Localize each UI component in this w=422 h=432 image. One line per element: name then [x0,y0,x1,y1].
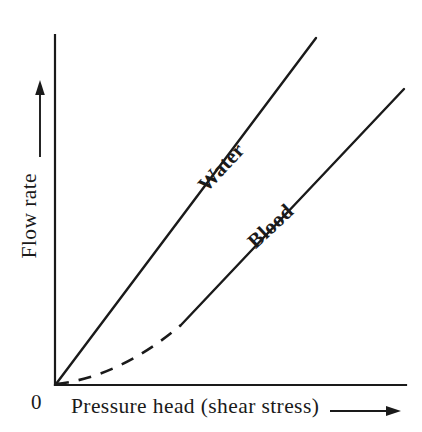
up-arrow-icon [35,80,45,95]
flow-rate-vs-pressure-head-figure: 0 Pressure head (shear stress) Flow rate… [0,0,422,432]
chart-canvas [0,0,422,432]
right-arrow-icon [386,406,401,416]
series-line-blood-dashed [56,325,181,384]
x-axis-label: Pressure head (shear stress) [71,396,319,418]
origin-label: 0 [31,392,42,413]
y-axis-label: Flow rate [19,173,41,258]
series-line-blood-solid [181,89,404,325]
